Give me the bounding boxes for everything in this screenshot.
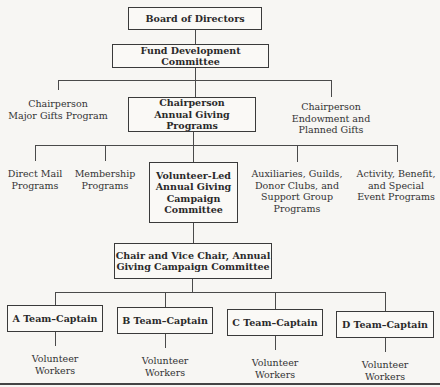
connector [193, 132, 194, 162]
connector [35, 145, 36, 161]
team-c-workers: Volunteer Workers [235, 357, 315, 380]
connector [331, 80, 332, 97]
direct-mail-programs: Direct Mail Programs [2, 168, 68, 191]
team-b-workers: Volunteer Workers [125, 355, 205, 378]
connector [58, 80, 331, 81]
board-of-directors-box: Board of Directors [128, 7, 262, 30]
connector [35, 145, 397, 146]
membership-programs: Membership Programs [72, 168, 138, 191]
connector [193, 223, 194, 243]
connector [58, 80, 59, 90]
auxiliaries-guilds-programs: Auxiliaries, Guilds, Donor Clubs, and Su… [246, 168, 348, 214]
activity-benefit-programs: Activity, Benefit, and Special Event Pro… [352, 168, 440, 203]
chairperson-annual-giving-box: Chairperson Annual Giving Programs [128, 97, 256, 132]
team-b-captain-box: B Team–Captain [117, 307, 213, 334]
connector [275, 336, 276, 350]
fund-development-committee-box: Fund Development Committee [112, 44, 269, 68]
team-a-captain-box: A Team–Captain [7, 305, 103, 332]
chair-vice-chair-box: Chair and Vice Chair, Annual Giving Camp… [114, 243, 272, 279]
connector [195, 68, 196, 97]
connector [385, 338, 386, 352]
connector [275, 292, 276, 309]
team-c-captain-box: C Team–Captain [227, 309, 323, 336]
connector [297, 145, 298, 162]
bottom-rule [0, 383, 440, 385]
chairperson-major-gifts: Chairperson Major Gifts Program [0, 98, 116, 121]
connector [385, 292, 386, 311]
volunteer-led-committee-box: Volunteer-Led Annual Giving Campaign Com… [149, 162, 238, 223]
connector [105, 145, 106, 161]
team-d-captain-box: D Team–Captain [336, 311, 434, 338]
chairperson-endowment: Chairperson Endowment and Planned Gifts [270, 101, 392, 136]
connector [55, 292, 56, 305]
team-a-workers: Volunteer Workers [15, 353, 95, 376]
connector [55, 292, 385, 293]
connector [55, 332, 56, 346]
team-d-workers: Volunteer Workers [345, 359, 425, 382]
connector [192, 279, 193, 292]
connector [165, 334, 166, 348]
connector [165, 292, 166, 307]
connector [195, 30, 196, 44]
connector [397, 145, 398, 162]
